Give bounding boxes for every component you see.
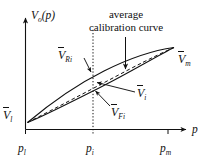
hysteresis-calibration-curve-figure: Vo(p) p average calibration curve Vl Vm …: [0, 0, 214, 161]
leader-v-forward: [96, 91, 111, 106]
tick-label-pressure-max: pm: [160, 139, 171, 155]
y-axis-label: Vo(p): [31, 6, 55, 22]
label-average-voltage: Vi: [137, 84, 146, 100]
tick-label-pressure-i: pi: [86, 139, 94, 155]
tick-label-pressure-lower: pl: [18, 139, 26, 155]
leader-v-reverse: [84, 58, 91, 72]
axis-tick-marks: [26, 130, 169, 135]
y-axis-symbol: V: [31, 9, 38, 21]
label-max-voltage: Vm: [178, 50, 191, 66]
y-axis-subscript: o: [38, 15, 42, 24]
annotation-line-2: calibration curve: [69, 21, 183, 34]
v-subscript: Fi: [118, 112, 125, 121]
p-subscript: m: [166, 148, 171, 157]
leader-v-average: [97, 83, 135, 93]
p-subscript: i: [92, 148, 94, 157]
label-forward-voltage: VFi: [111, 103, 125, 119]
y-axis-argument: (p): [42, 9, 55, 21]
average-calibration-curve-line: [28, 48, 175, 123]
p-subscript: l: [24, 148, 26, 157]
x-axis-label: p: [192, 124, 198, 136]
loop-lower-branch: [28, 48, 175, 123]
annotation-line-1: average: [69, 8, 183, 21]
v-subscript: Ri: [65, 55, 72, 64]
loop-upper-branch: [28, 48, 175, 123]
p-symbol: p: [18, 142, 24, 154]
label-lower-limit-voltage: Vl: [3, 106, 12, 122]
p-symbol: p: [160, 142, 166, 154]
average-calibration-curve-annotation: average calibration curve: [69, 8, 183, 34]
v-subscript: m: [185, 59, 190, 68]
label-reverse-voltage: VRi: [58, 46, 72, 62]
hysteresis-loop: [28, 48, 175, 123]
p-symbol: p: [86, 142, 92, 154]
